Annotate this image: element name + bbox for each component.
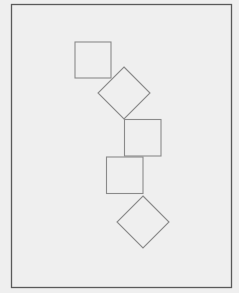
square-shape: [125, 120, 162, 157]
square-shape: [107, 157, 144, 194]
diagram-canvas: [0, 0, 239, 293]
diamond-shape: [117, 196, 169, 248]
frame-border: [12, 5, 232, 288]
square-shape: [75, 42, 111, 78]
shape-group: [75, 42, 169, 248]
diamond-shape: [98, 67, 150, 119]
